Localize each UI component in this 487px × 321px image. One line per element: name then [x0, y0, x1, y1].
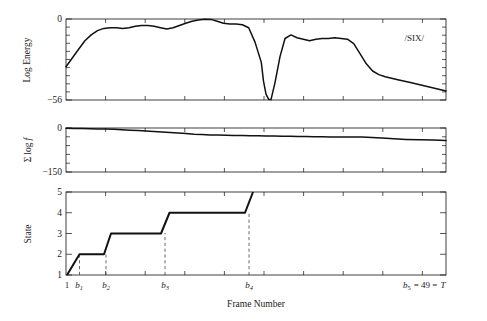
sum-log-f-curve [66, 128, 446, 140]
panel-top-ytick-bottom: −56 [47, 95, 62, 105]
panel-top-x-ticks [106, 19, 423, 100]
xaxis-label-b5: b5= 49 =T [403, 280, 446, 291]
panel-middle-y-ticks [66, 128, 446, 172]
panel-top-y-ticks-right [440, 19, 446, 100]
xaxis-start-label: 1 [65, 280, 70, 290]
panel-bottom-ytick-4: 4 [57, 208, 62, 218]
panel-middle-frame [66, 128, 446, 172]
f-glyph: f [23, 136, 33, 140]
xaxis-label-b1: b1 [75, 280, 83, 291]
panel-bottom-ytick-1: 1 [57, 270, 62, 280]
panel-middle-x-ticks [106, 128, 423, 172]
panel-middle-ytick-top: 0 [57, 123, 62, 133]
phoneme-annotation: /SIX/ [404, 33, 424, 43]
panel-bottom-ytick-3: 3 [57, 229, 62, 239]
panel-bottom-ytick-5: 5 [57, 187, 62, 197]
svg-text:Σlogf: Σlogf [23, 136, 33, 162]
panel-sum-log-f [66, 128, 446, 172]
sigma-glyph: Σ [23, 156, 33, 162]
panel-log-energy [66, 19, 446, 100]
panel-top-ylabel: Log Energy [22, 37, 32, 82]
panel-state [66, 192, 446, 275]
panel-top-frame [66, 19, 446, 100]
xaxis-label-b4: b4 [245, 280, 254, 291]
panel-top-ytick-top: 0 [57, 14, 62, 24]
panel-middle-ytick-bottom: −150 [42, 167, 62, 177]
xaxis-label-b2: b2 [102, 280, 111, 291]
log-energy-curve [66, 19, 446, 99]
xaxis-label-b3: b3 [161, 280, 170, 291]
panel-bottom-ytick-2: 2 [57, 249, 62, 259]
figure-container: 0 −56 Log Energy /SIX/ [0, 0, 487, 321]
xaxis-title: Frame Number [227, 299, 286, 309]
panel-bottom-ylabel: State [23, 225, 33, 244]
state-step-curve [67, 192, 253, 275]
panel-middle-ylabel: Σlogf [23, 136, 33, 162]
three-panel-chart: 0 −56 Log Energy /SIX/ [0, 0, 487, 321]
log-text: log [23, 142, 33, 154]
